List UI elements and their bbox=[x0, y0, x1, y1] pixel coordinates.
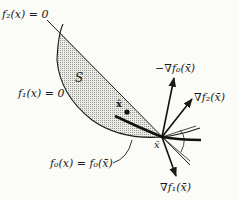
grad-f2-label: ∇f₂(x̄) bbox=[194, 92, 225, 103]
level-set-label: f₀(x) = f₀(x̄) bbox=[50, 158, 113, 169]
feasible-set-label: S bbox=[75, 72, 83, 84]
neg-grad-f0-label: −∇f₀(x̄) bbox=[155, 63, 195, 74]
x-hat-label: x̂ bbox=[116, 99, 122, 109]
level-set-leader bbox=[113, 140, 132, 163]
f2-constraint-label: f₂(x) = 0 bbox=[2, 9, 48, 20]
x-hat-point bbox=[124, 109, 129, 114]
optimality-diagram: f₂(x) = 0 f₁(x) = 0 S x̂ f₀(x) = f₀(x̄) … bbox=[0, 0, 238, 200]
feasible-set-region bbox=[57, 33, 161, 137]
x-bar-label: x̄ bbox=[154, 140, 160, 150]
f1-constraint-label: f₁(x) = 0 bbox=[18, 88, 64, 99]
grad-f1-label: ∇f₁(x̄) bbox=[160, 182, 191, 193]
